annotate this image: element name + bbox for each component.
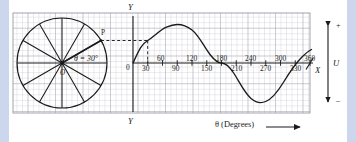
tick-label-360: 360	[304, 55, 315, 62]
graph-origin-label: 0	[126, 64, 130, 71]
tick-label-240: 240	[245, 55, 256, 62]
phasor-circle-group	[17, 18, 107, 108]
point-p-label: P	[101, 30, 105, 37]
tick-label-120: 120	[186, 55, 197, 62]
point-p-marker	[100, 39, 103, 42]
tick-label-330: 330	[290, 65, 301, 72]
y-axis-bottom-label: Y	[128, 117, 133, 126]
x-axis-label: X	[315, 66, 320, 75]
tick-label-60: 60	[157, 55, 164, 62]
angle-theta-label: θ = 30°	[74, 55, 98, 63]
polarity-minus-label: –	[336, 97, 340, 105]
y-axis-top-label: Y	[128, 3, 133, 12]
x-axis-title: θ (Degrees)	[215, 121, 254, 129]
left-margin-band	[0, 0, 9, 142]
tick-label-300: 300	[275, 55, 286, 62]
circle-origin-label: O	[60, 70, 65, 77]
tick-label-270: 270	[260, 65, 271, 72]
tick-label-150: 150	[201, 65, 212, 72]
tick-label-180: 180	[216, 55, 227, 62]
tick-label-90: 90	[172, 65, 179, 72]
tick-label-210: 210	[231, 65, 242, 72]
amplitude-u-label: U	[333, 59, 339, 68]
polarity-plus-label: +	[336, 22, 341, 30]
right-margin-band	[347, 0, 356, 142]
tick-label-30: 30	[142, 65, 149, 72]
